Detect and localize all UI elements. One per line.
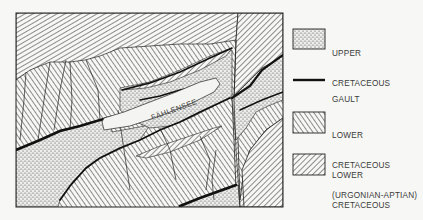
map-body: FÄHLENSEE	[16, 13, 283, 207]
legend-swatch-hauterivian	[293, 154, 325, 175]
legend-swatch-upper-cretaceous	[293, 29, 325, 49]
legend-swatches	[293, 29, 325, 175]
legend-swatch-urgonian-aptian	[293, 112, 325, 133]
geologic-map-figure: FÄHLENSEE	[0, 0, 423, 220]
